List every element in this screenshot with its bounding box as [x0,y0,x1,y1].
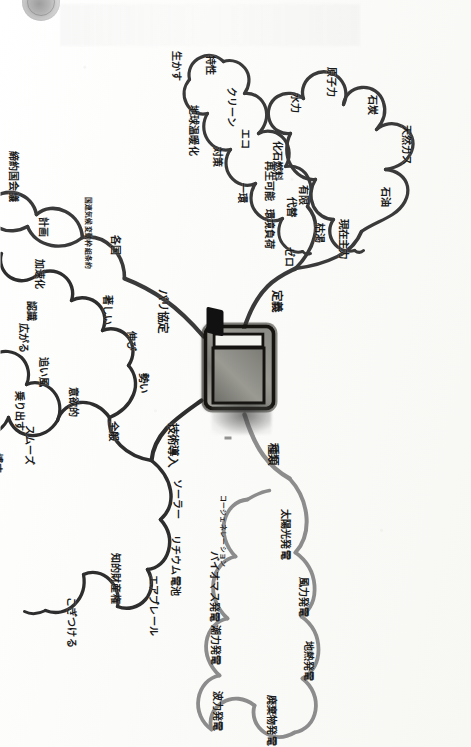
node-genshiryoku[interactable]: 原子力 [324,66,339,97]
node-kokatsu[interactable]: 枯渇 [312,222,327,243]
node-hakusu[interactable]: 博す [0,452,5,473]
node-taisaku[interactable]: 対策 [210,146,225,167]
node-choryoku[interactable]: 潮力発電 [208,624,223,665]
mindmap-rotor: 定義 現在主力 石油 天然ガス 石炭 原子力 水力 化石燃料 有限 枯渇 代替 … [0,0,471,747]
ink-smudge [211,404,271,434]
node-taiyoko[interactable]: 太陽光発電 [278,508,293,560]
node-ikkan[interactable]: 一環 [235,182,250,203]
node-zenpan[interactable]: 全般 [106,420,121,441]
node-shurui[interactable]: 種類 [265,442,281,465]
node-airbrail[interactable]: エアブレール [146,574,161,636]
node-lithium[interactable]: リチウム電池 [168,534,183,596]
node-teiyakukoku-kaigi[interactable]: 締約国会議 [6,150,21,202]
node-genzai-shuryoku[interactable]: 現在主力 [336,218,351,259]
node-chiteki-zaisanken[interactable]: 知的財産権 [108,552,123,604]
node-zero[interactable]: ゼロ [282,246,297,267]
node-oikaze[interactable]: 追い風 [36,356,51,387]
node-eco[interactable]: エコ [238,128,253,149]
node-chikyu-ondanka[interactable]: 地球温暖化 [186,104,201,156]
node-ninshiki[interactable]: 認識 [24,300,39,321]
node-ikiyokuteki[interactable]: 意欲的 [66,386,81,417]
node-nobi[interactable]: 伸び [124,330,139,351]
central-inner-panel [211,346,265,404]
central-topic-image [203,324,275,410]
node-cogeneration[interactable]: コージェネレーション [218,494,228,567]
mindmap-page: 定義 現在主力 石油 天然ガス 石炭 原子力 水力 化石燃料 有限 枯渇 代替 … [0,0,471,747]
node-kogitsukeru[interactable]: こぎつける [64,596,79,648]
node-haikibutsu[interactable]: 廃棄物発電 [264,694,279,746]
central-tab [206,306,223,336]
node-ichijirushii[interactable]: 著しい [100,294,115,325]
node-ikioi[interactable]: 勢い [136,372,151,393]
node-kasokuka[interactable]: 加速化 [32,258,47,289]
node-kankyo-fuka[interactable]: 環境負荷 [262,208,277,249]
node-kakkoku[interactable]: 各国 [108,234,123,255]
node-haryoku[interactable]: 波力発電 [210,690,225,731]
node-ikasu[interactable]: 生かす [169,50,184,81]
node-solar[interactable]: ソーラー [170,478,185,519]
node-tokusei[interactable]: 特性 [203,54,218,75]
node-saisei-kano[interactable]: 再生可能 [262,160,277,201]
node-tennen-gas[interactable]: 天然ガス [399,124,414,165]
node-hirogaru[interactable]: 広がる [16,322,31,353]
node-furyoku[interactable]: 風力発電 [296,576,311,617]
node-sekiyu[interactable]: 石油 [378,186,393,207]
node-suiryoku[interactable]: 水力 [288,92,303,113]
node-paris-kyotei[interactable]: パリ協定 [155,288,171,333]
node-smooth[interactable]: スムーズ [22,424,37,465]
node-keikaku[interactable]: 計画 [36,216,51,237]
mindmap-canvas: 定義 現在主力 石油 天然ガス 石炭 原子力 水力 化石燃料 有限 枯渇 代替 … [0,0,471,747]
node-teigi[interactable]: 定義 [269,289,285,312]
ink-fleck [224,436,231,439]
node-unfccc[interactable]: 国連気候変動枠組条約 [83,196,93,269]
node-daitai[interactable]: 代替 [284,196,299,217]
node-chinetsu[interactable]: 地熱発電 [301,640,316,681]
node-gijutsu-donyu[interactable]: 技術導入 [165,422,181,467]
node-clean[interactable]: クリーン [224,86,239,127]
node-sekitan[interactable]: 石炭 [365,94,380,115]
